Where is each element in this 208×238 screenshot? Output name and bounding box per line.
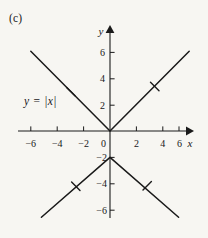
x-tick-label-2: 2 [134, 138, 139, 149]
x-tick-label-4: 4 [160, 138, 165, 149]
coordinate-plot: −6 −4 −2 0 2 4 6 6 4 2 −2 −4 −6 y x [0, 0, 208, 238]
curve-upper-left-hash [67, 87, 75, 95]
y-tick-label--4: −4 [96, 178, 107, 189]
y-tick-label-2: 2 [100, 100, 105, 111]
x-tick-label--2: −2 [78, 138, 89, 149]
y-axis-label: y [98, 25, 104, 37]
x-tick-labels: −6 −4 −2 0 2 4 6 [25, 138, 182, 149]
x-tick-label-6: 6 [177, 138, 182, 149]
y-tick-label-4: 4 [100, 73, 105, 84]
y-tick-label--6: −6 [96, 205, 107, 216]
y-axis-arrowhead [106, 25, 115, 33]
curve-lower-right-hash [143, 182, 151, 190]
x-tick-label--4: −4 [52, 138, 63, 149]
x-axis-label: x [187, 137, 193, 149]
x-tick-label--6: −6 [25, 138, 36, 149]
x-axis-ticks [31, 126, 179, 131]
x-axis-arrowhead [186, 127, 194, 136]
y-tick-label-6: 6 [100, 47, 105, 58]
figure-panel-c: (c) y = |x| [0, 0, 208, 238]
x-tick-label-0: 0 [101, 138, 106, 149]
